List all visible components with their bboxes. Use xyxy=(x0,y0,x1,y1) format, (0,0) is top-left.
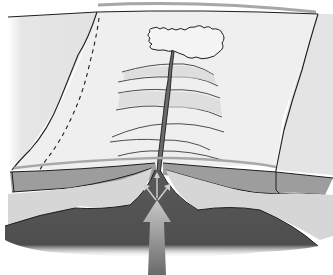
ridge-diagram xyxy=(0,0,333,275)
